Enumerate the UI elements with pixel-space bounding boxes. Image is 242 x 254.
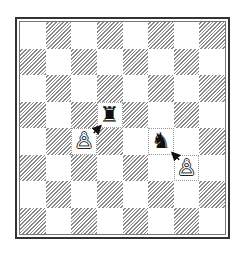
square-e5 bbox=[123, 102, 149, 129]
square-d8 bbox=[97, 22, 123, 49]
square-h4 bbox=[199, 128, 225, 155]
square-a1 bbox=[20, 208, 46, 235]
square-h3 bbox=[199, 155, 225, 182]
square-g3: ♙ bbox=[174, 155, 200, 182]
square-h6 bbox=[199, 75, 225, 102]
square-b6 bbox=[46, 75, 72, 102]
square-b1 bbox=[46, 208, 72, 235]
square-h2 bbox=[199, 181, 225, 208]
square-e8 bbox=[123, 22, 149, 49]
square-c8 bbox=[71, 22, 97, 49]
square-e2 bbox=[123, 181, 149, 208]
square-f3 bbox=[148, 155, 174, 182]
square-d5: ♜ bbox=[97, 102, 123, 129]
square-b5 bbox=[46, 102, 72, 129]
white-pawn-icon: ♙ bbox=[174, 155, 200, 182]
square-c3 bbox=[71, 155, 97, 182]
square-a3 bbox=[20, 155, 46, 182]
square-d7 bbox=[97, 49, 123, 76]
square-f5 bbox=[148, 102, 174, 129]
board-frame: ♜♙♞♙ bbox=[15, 17, 230, 239]
square-h8 bbox=[199, 22, 225, 49]
square-c1 bbox=[71, 208, 97, 235]
square-d1 bbox=[97, 208, 123, 235]
square-f4: ♞ bbox=[148, 128, 174, 155]
square-d3 bbox=[97, 155, 123, 182]
square-g6 bbox=[174, 75, 200, 102]
square-g4 bbox=[174, 128, 200, 155]
square-g2 bbox=[174, 181, 200, 208]
square-c7 bbox=[71, 49, 97, 76]
square-a5 bbox=[20, 102, 46, 129]
square-e3 bbox=[123, 155, 149, 182]
square-f8 bbox=[148, 22, 174, 49]
square-a8 bbox=[20, 22, 46, 49]
square-f2 bbox=[148, 181, 174, 208]
square-a4 bbox=[20, 128, 46, 155]
square-e4 bbox=[123, 128, 149, 155]
square-f7 bbox=[148, 49, 174, 76]
square-a6 bbox=[20, 75, 46, 102]
square-g5 bbox=[174, 102, 200, 129]
square-h1 bbox=[199, 208, 225, 235]
square-b7 bbox=[46, 49, 72, 76]
square-g8 bbox=[174, 22, 200, 49]
square-h7 bbox=[199, 49, 225, 76]
square-a7 bbox=[20, 49, 46, 76]
white-pawn-icon: ♙ bbox=[71, 128, 97, 155]
square-g7 bbox=[174, 49, 200, 76]
square-d6 bbox=[97, 75, 123, 102]
chess-board: ♜♙♞♙ bbox=[19, 21, 226, 235]
square-a2 bbox=[20, 181, 46, 208]
square-b4 bbox=[46, 128, 72, 155]
square-c5 bbox=[71, 102, 97, 129]
square-e1 bbox=[123, 208, 149, 235]
square-c2 bbox=[71, 181, 97, 208]
square-h5 bbox=[199, 102, 225, 129]
square-b2 bbox=[46, 181, 72, 208]
square-g1 bbox=[174, 208, 200, 235]
square-b3 bbox=[46, 155, 72, 182]
square-e6 bbox=[123, 75, 149, 102]
square-e7 bbox=[123, 49, 149, 76]
black-knight-icon: ♞ bbox=[148, 128, 174, 155]
square-f1 bbox=[148, 208, 174, 235]
square-c4: ♙ bbox=[71, 128, 97, 155]
square-c6 bbox=[71, 75, 97, 102]
square-b8 bbox=[46, 22, 72, 49]
black-rook-icon: ♜ bbox=[97, 102, 123, 129]
square-f6 bbox=[148, 75, 174, 102]
square-d2 bbox=[97, 181, 123, 208]
square-d4 bbox=[97, 128, 123, 155]
